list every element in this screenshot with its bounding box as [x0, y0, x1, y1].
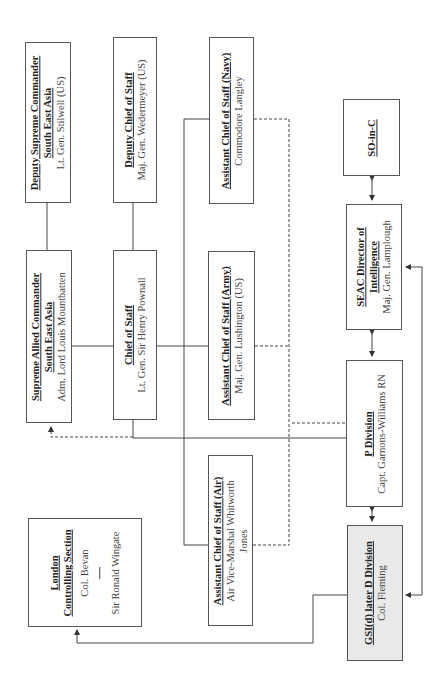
- node-title: SEAC Director of: [354, 220, 367, 313]
- node-seac-director-of-intelligence: SEAC Director of Intelligence Maj. Gen. …: [346, 204, 402, 330]
- node-person: Jones: [237, 476, 250, 604]
- node-london-controlling-section: London Controlling Section Col. Bevan Si…: [28, 518, 142, 627]
- node-title: Controlling Section: [61, 529, 74, 616]
- node-person: Maj. Gen. Lamplough: [381, 220, 394, 313]
- node-title: Deputy Chief of Staff: [122, 59, 135, 180]
- node-person: Adm. Lord Louis Mountbatten: [56, 272, 69, 402]
- node-acos-navy: Assistant Chief of Staff (Navy) Commodor…: [209, 37, 254, 204]
- node-person: Commodore Langley: [232, 52, 245, 189]
- node-person: Air Vice-Marshal Whitworth: [224, 476, 237, 604]
- node-gsi-d-division: GSI(d) later D Division Col. Fleming: [347, 525, 403, 661]
- node-supreme-allied-commander: Supreme Allied Commander South East Asia…: [26, 250, 72, 423]
- node-person-secondary: Sir Ronald Wingate: [109, 529, 122, 616]
- node-title: Assistant Chief of Staff (Navy): [218, 52, 231, 189]
- node-title: SO-in-C: [365, 119, 378, 156]
- node-acos-army: Assistant Chief of Staff (Army) Maj. Gen…: [208, 251, 255, 420]
- node-person: Col. Fleming: [375, 541, 388, 645]
- node-person: Capt. Garnons-Williams RN: [375, 374, 388, 493]
- node-title: GSI(d) later D Division: [362, 541, 375, 645]
- node-person: Col. Bevan: [78, 529, 91, 616]
- node-person: Maj. Gen. Lushington (US): [232, 266, 245, 405]
- node-title: Intelligence: [367, 220, 380, 313]
- link-divider: [100, 567, 101, 579]
- node-title: South East Asia: [41, 55, 54, 190]
- node-title: Assistant Chief of Staff (Air): [211, 476, 224, 604]
- node-title: London: [48, 529, 61, 616]
- node-deputy-supreme-commander: Deputy Supreme Commander South East Asia…: [25, 42, 71, 203]
- node-title: South East Asia: [42, 272, 55, 402]
- node-p-division: P Division Capt. Garnons-Williams RN: [346, 360, 403, 507]
- node-person: Lt. Gen. Sir Henry Pownall: [135, 277, 148, 393]
- node-title: P Division: [361, 374, 374, 493]
- node-title: Supreme Allied Commander: [29, 272, 42, 402]
- org-chart-diagram: Deputy Supreme Commander South East Asia…: [0, 0, 447, 694]
- node-acos-air: Assistant Chief of Staff (Air) Air Vice-…: [208, 455, 253, 626]
- node-chief-of-staff: Chief of Staff Lt. Gen. Sir Henry Pownal…: [113, 250, 157, 420]
- node-title: Chief of Staff: [122, 277, 135, 393]
- node-deputy-chief-of-staff: Deputy Chief of Staff Maj. Gen. Wedermey…: [113, 37, 157, 203]
- node-title: Deputy Supreme Commander: [28, 55, 41, 190]
- node-title: Assistant Chief of Staff (Army): [218, 266, 231, 405]
- node-person: Maj. Gen. Wedermeyer (US): [135, 59, 148, 180]
- node-person: Lt. Gen. Stilwell (US): [55, 55, 68, 190]
- node-so-in-c: SO-in-C: [343, 99, 400, 176]
